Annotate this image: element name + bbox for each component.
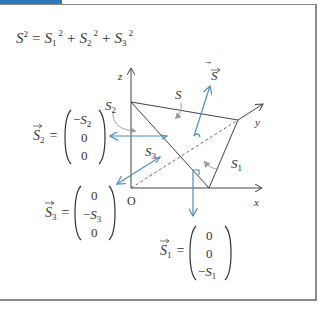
- svg-text:0: 0: [91, 188, 98, 203]
- origin-label: O: [127, 194, 136, 208]
- right-angle-s2: [160, 135, 167, 139]
- z-axis-label: z: [117, 70, 123, 82]
- right-angle-s: [194, 134, 200, 137]
- area-vectors: [110, 86, 210, 216]
- label-s1: S1: [231, 156, 242, 173]
- edge-z-y: [131, 102, 238, 120]
- svg-text:−S2: −S2: [73, 112, 91, 129]
- vector-s: [194, 86, 210, 136]
- svg-text:S3=: S3=: [45, 205, 70, 222]
- svg-text:−S1: −S1: [198, 264, 216, 281]
- svg-text:0: 0: [206, 228, 213, 243]
- svg-text:0: 0: [206, 246, 213, 261]
- label-s3: S3: [145, 144, 157, 161]
- formula-s-squared: S2=S12+S22+S32: [16, 28, 133, 48]
- x-axis-label: x: [253, 196, 259, 208]
- svg-text:0: 0: [81, 130, 88, 145]
- vector-s2-definition: S2= −S2 0 0: [33, 110, 105, 164]
- s1-pointer: [204, 161, 219, 169]
- svg-text:0: 0: [81, 148, 88, 163]
- svg-text:S1=: S1=: [160, 243, 185, 260]
- vector-s1-definition: S1= 0 0 −S1: [160, 226, 231, 281]
- y-axis-label: y: [254, 116, 260, 128]
- vector-s3-definition: S3= 0 −S3 0: [45, 186, 115, 240]
- svg-text:S2=S12+S22+S32: S2=S12+S22+S32: [16, 28, 133, 48]
- svg-text:S2=: S2=: [33, 128, 58, 145]
- vector-arrow-accent: ⃗: [205, 61, 211, 64]
- s2-pointer: [113, 111, 136, 131]
- label-s2: S2: [105, 98, 116, 115]
- s-pointer: [175, 103, 181, 119]
- diagram-canvas: S2=S12+S22+S32 z y x O S ⃗: [0, 0, 334, 314]
- edge-z-x: [131, 102, 209, 188]
- edge-y-x: [209, 120, 238, 188]
- svg-text:−S3: −S3: [83, 207, 102, 224]
- label-s: S: [175, 87, 182, 102]
- vector-s3: [117, 157, 160, 184]
- svg-text:0: 0: [91, 225, 98, 240]
- axes: z y x O: [117, 68, 263, 208]
